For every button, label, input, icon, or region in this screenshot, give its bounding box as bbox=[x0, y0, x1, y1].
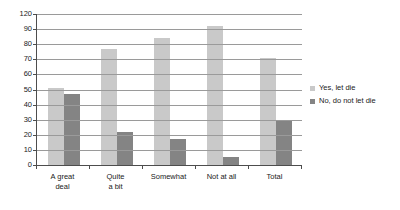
y-axis-tick-label: 70 bbox=[6, 55, 32, 63]
gridline bbox=[37, 29, 302, 30]
y-axis-tick-label: 40 bbox=[6, 101, 32, 109]
legend-label: Yes, let die bbox=[319, 84, 355, 92]
legend-label: No, do not let die bbox=[319, 97, 376, 105]
x-axis-tick-mark bbox=[195, 165, 196, 169]
legend-item[interactable]: Yes, let die bbox=[310, 84, 398, 92]
gridline bbox=[37, 105, 302, 106]
gridline bbox=[37, 44, 302, 45]
bar bbox=[276, 121, 292, 165]
bar bbox=[101, 49, 117, 165]
legend-item[interactable]: No, do not let die bbox=[310, 97, 398, 105]
y-axis-tick-label: 120 bbox=[6, 10, 32, 18]
y-axis-tick-label: 20 bbox=[6, 131, 32, 139]
x-axis-labels: A great dealQuite a bitSomewhatNot at al… bbox=[36, 172, 301, 191]
x-axis-category-label: Total bbox=[248, 172, 301, 191]
gridline bbox=[37, 74, 302, 75]
bar bbox=[170, 139, 186, 165]
x-axis-category-label: Quite a bit bbox=[89, 172, 142, 191]
x-axis-tick-mark bbox=[36, 165, 37, 169]
chart-legend: Yes, let dieNo, do not let die bbox=[310, 84, 398, 110]
bar bbox=[223, 157, 239, 165]
gridline bbox=[37, 150, 302, 151]
y-axis-tick-label: 0 bbox=[6, 161, 32, 169]
gridline bbox=[37, 14, 302, 15]
y-axis-tick-label: 60 bbox=[6, 70, 32, 78]
x-axis-category-label: Not at all bbox=[195, 172, 248, 191]
y-axis-tick-label: 30 bbox=[6, 116, 32, 124]
gridline bbox=[37, 120, 302, 121]
gridline bbox=[37, 90, 302, 91]
y-axis-tick-label: 10 bbox=[6, 146, 32, 154]
bar bbox=[117, 132, 133, 165]
gridline bbox=[37, 135, 302, 136]
y-axis: 1209080706050403020100 bbox=[0, 14, 32, 165]
legend-swatch-icon bbox=[310, 99, 315, 104]
x-axis-tick-mark bbox=[248, 165, 249, 169]
x-axis-category-label: Somewhat bbox=[142, 172, 195, 191]
bar bbox=[48, 88, 64, 165]
x-axis-tick-mark bbox=[142, 165, 143, 169]
x-axis-ticks bbox=[36, 165, 301, 169]
y-axis-tick-label: 50 bbox=[6, 86, 32, 94]
x-axis-tick-mark bbox=[301, 165, 302, 169]
gridline bbox=[37, 59, 302, 60]
bar-chart: 1209080706050403020100 A great dealQuite… bbox=[0, 0, 400, 210]
bar bbox=[207, 26, 223, 165]
plot-area bbox=[36, 14, 302, 166]
x-axis-category-label: A great deal bbox=[36, 172, 89, 191]
y-axis-tick-label: 80 bbox=[6, 40, 32, 48]
legend-swatch-icon bbox=[310, 86, 315, 91]
bar bbox=[154, 38, 170, 165]
y-axis-tick-label: 90 bbox=[6, 25, 32, 33]
x-axis-tick-mark bbox=[89, 165, 90, 169]
